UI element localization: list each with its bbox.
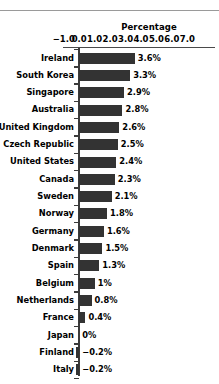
bar bbox=[79, 191, 111, 202]
bar-row: Belgium1% bbox=[0, 275, 219, 292]
bar bbox=[79, 139, 118, 150]
x-tick-label: 3.0 bbox=[118, 34, 133, 45]
bar-value-label: 2.1% bbox=[115, 188, 138, 205]
bar-value-label: 1.8% bbox=[110, 205, 133, 222]
bar bbox=[79, 243, 102, 254]
bar-category-label: Finland bbox=[0, 344, 74, 361]
y-axis-tick bbox=[74, 378, 79, 379]
x-tick-label: 4.0 bbox=[133, 34, 148, 45]
bar-category-label: Spain bbox=[0, 257, 74, 274]
bar bbox=[79, 105, 122, 116]
bar bbox=[79, 278, 94, 289]
bar-value-label: 2.6% bbox=[122, 119, 145, 136]
plot-area: Ireland3.6%South Korea3.3%Singapore2.9%A… bbox=[0, 48, 219, 380]
bar-value-label: 3.3% bbox=[133, 67, 156, 84]
x-tick-label: 2.0 bbox=[103, 34, 118, 45]
bar-value-label: 2.3% bbox=[118, 171, 141, 188]
bar-row: Canada2.3% bbox=[0, 171, 219, 188]
bar-value-label: 0.4% bbox=[88, 309, 111, 326]
bar-value-label: 1% bbox=[98, 275, 112, 292]
bar-row: Czech Republic2.5% bbox=[0, 136, 219, 153]
bar-row: Singapore2.9% bbox=[0, 84, 219, 101]
bar-category-label: Denmark bbox=[0, 240, 74, 257]
bar bbox=[79, 87, 124, 98]
bar-chart: Percentage −1.00.01.02.03.04.05.06.07.0 … bbox=[0, 0, 219, 384]
bar-value-label: −0.2% bbox=[82, 344, 112, 361]
bar-value-label: 3.6% bbox=[138, 50, 161, 67]
x-tick-label: 6.0 bbox=[164, 34, 179, 45]
x-tick-label: 7.0 bbox=[180, 34, 195, 45]
bar-category-label: United Kingdom bbox=[0, 119, 74, 136]
bar-row: United States2.4% bbox=[0, 153, 219, 170]
bar-category-label: Sweden bbox=[0, 188, 74, 205]
bar bbox=[79, 226, 104, 237]
y-axis-tick bbox=[74, 49, 79, 50]
bar-category-label: Belgium bbox=[0, 275, 74, 292]
bar-category-label: Canada bbox=[0, 171, 74, 188]
bar-category-label: Ireland bbox=[0, 50, 74, 67]
bar-value-label: −0.2% bbox=[82, 361, 112, 378]
bar-category-label: United States bbox=[0, 153, 74, 170]
bar-value-label: 1.6% bbox=[107, 223, 130, 240]
bar-row: France0.4% bbox=[0, 309, 219, 326]
bar-value-label: 2.5% bbox=[121, 136, 144, 153]
bar bbox=[79, 122, 119, 133]
x-axis-tick-labels: −1.00.01.02.03.04.05.06.07.0 bbox=[0, 34, 219, 45]
bar-category-label: Norway bbox=[0, 205, 74, 222]
bar-row: Norway1.8% bbox=[0, 205, 219, 222]
bar-value-label: 0.8% bbox=[95, 292, 118, 309]
bar-row: United Kingdom2.6% bbox=[0, 119, 219, 136]
bar-value-label: 1.3% bbox=[102, 257, 125, 274]
bar-category-label: South Korea bbox=[0, 67, 74, 84]
bar-row: Italy−0.2% bbox=[0, 361, 219, 378]
bar-row: Spain1.3% bbox=[0, 257, 219, 274]
bar-row: Denmark1.5% bbox=[0, 240, 219, 257]
bar-row: Ireland3.6% bbox=[0, 50, 219, 67]
bar-category-label: France bbox=[0, 309, 74, 326]
bar bbox=[79, 157, 116, 168]
bar bbox=[76, 364, 79, 375]
bar-category-label: Czech Republic bbox=[0, 136, 74, 153]
bar-category-label: Netherlands bbox=[0, 292, 74, 309]
bar-category-label: Japan bbox=[0, 327, 74, 344]
bar-row: Australia2.8% bbox=[0, 101, 219, 118]
bar-category-label: Germany bbox=[0, 223, 74, 240]
bar-category-label: Italy bbox=[0, 361, 74, 378]
bar bbox=[79, 260, 99, 271]
x-tick-label: 5.0 bbox=[149, 34, 164, 45]
bar-value-label: 0% bbox=[82, 327, 96, 344]
bar-row: Japan0% bbox=[0, 327, 219, 344]
bar-category-label: Singapore bbox=[0, 84, 74, 101]
bar-row: Netherlands0.8% bbox=[0, 292, 219, 309]
bar bbox=[79, 312, 85, 323]
bar bbox=[79, 174, 115, 185]
bar bbox=[79, 53, 135, 64]
bar-value-label: 1.5% bbox=[105, 240, 128, 257]
axis-title: Percentage bbox=[79, 22, 219, 32]
bar-value-label: 2.8% bbox=[125, 101, 148, 118]
bar-category-label: Australia bbox=[0, 101, 74, 118]
bar-row: South Korea3.3% bbox=[0, 67, 219, 84]
x-tick-label: 1.0 bbox=[87, 34, 102, 45]
bar-row: Germany1.6% bbox=[0, 223, 219, 240]
bar-value-label: 2.4% bbox=[119, 153, 142, 170]
bar bbox=[76, 347, 79, 358]
bar bbox=[79, 208, 107, 219]
bar-row: Sweden2.1% bbox=[0, 188, 219, 205]
bar-value-label: 2.9% bbox=[127, 84, 150, 101]
bar bbox=[79, 70, 130, 81]
bar bbox=[79, 295, 91, 306]
bar-row: Finland−0.2% bbox=[0, 344, 219, 361]
x-tick-label: 0.0 bbox=[72, 34, 87, 45]
